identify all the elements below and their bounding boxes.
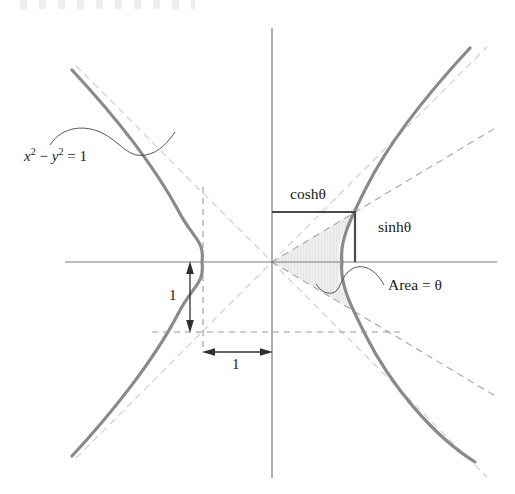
equation-x-exponent: 2: [31, 146, 36, 157]
sinh-label: sinhθ: [378, 219, 411, 235]
equation-x: x: [24, 148, 31, 164]
asymptote-positive: [76, 47, 487, 458]
hyperbola-right-branch: [342, 48, 475, 462]
equation-rhs: = 1: [67, 148, 87, 164]
area-label: Area = θ: [388, 277, 442, 293]
unit-vertical-arrowhead-bottom: [186, 320, 194, 333]
sector-ray-lower: [272, 262, 497, 397]
hyperbola-figure: x2 − y2 = 1 coshθ sinhθ Area = θ 1 1: [0, 0, 515, 494]
asymptote-negative: [76, 66, 487, 477]
diagram-canvas: [0, 0, 515, 494]
equation-minus: −: [40, 148, 48, 164]
equation-label: x2 − y2 = 1: [24, 147, 87, 164]
equation-y-exponent: 2: [58, 146, 63, 157]
unit-horizontal-arrowhead-left: [202, 348, 215, 356]
unit-horizontal-arrowhead-right: [260, 348, 273, 356]
cosh-label: coshθ: [290, 186, 326, 202]
unit-vertical-arrowhead-top: [186, 261, 194, 274]
unit-vertical-label: 1: [169, 288, 177, 303]
unit-horizontal-label: 1: [232, 357, 240, 372]
